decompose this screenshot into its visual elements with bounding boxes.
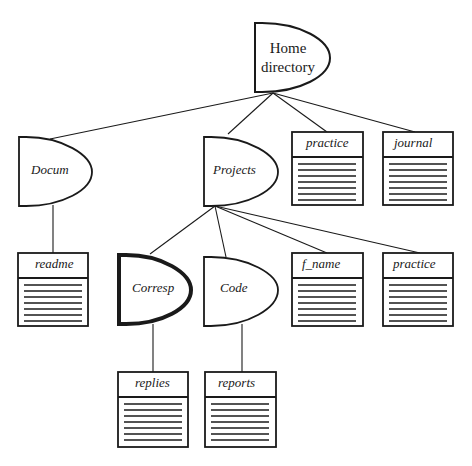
journal-label: journal [394,135,432,151]
connector-lines [50,93,420,372]
reports-label: reports [218,375,255,391]
projects-label: Projects [213,162,256,178]
home-label-line2: directory [258,58,318,77]
code-label: Code [220,280,247,296]
corresp-label: Corresp [132,280,174,296]
practice-top-label: practice [306,135,349,151]
home-directory-label: Home directory [258,39,318,77]
practice-proj-label: practice [393,256,436,272]
f-name-label: f_name [302,256,340,272]
readme-label: readme [35,256,74,272]
home-label-line1: Home [258,39,318,58]
docum-label: Docum [31,162,69,178]
replies-label: replies [135,375,170,391]
tree-diagram [0,0,472,466]
